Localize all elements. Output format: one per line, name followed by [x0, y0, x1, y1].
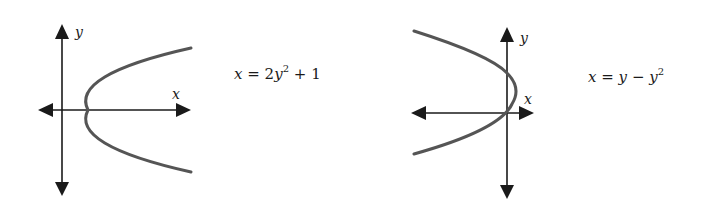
graphs-canvas: y x y x: [0, 0, 709, 211]
equation-lhs: x: [234, 65, 242, 83]
operator: −: [632, 68, 645, 86]
x-axis-right-arrow-icon: [519, 106, 534, 120]
x-axis-label: x: [524, 91, 532, 107]
variable: y: [619, 68, 627, 86]
exponent: 2: [283, 63, 289, 74]
x-axis-right-arrow-icon: [176, 103, 191, 117]
y-axis-up-arrow-icon: [55, 24, 69, 39]
graph-1: y x: [38, 24, 191, 196]
variable: y: [649, 68, 657, 86]
y-axis-down-arrow-icon: [55, 182, 69, 196]
equation-2: x = y − y2: [588, 68, 664, 86]
parabola-curve: [414, 31, 516, 154]
x-axis-left-arrow-icon: [411, 106, 426, 120]
coefficient: 2: [265, 65, 275, 83]
x-axis-left-arrow-icon: [38, 103, 53, 117]
graph-2: y x: [411, 27, 534, 199]
equals-sign: =: [247, 65, 260, 83]
equation-lhs: x: [588, 68, 596, 86]
y-axis-down-arrow-icon: [500, 185, 514, 199]
constant: 1: [311, 65, 321, 83]
y-axis-up-arrow-icon: [500, 27, 514, 42]
exponent: 2: [658, 66, 664, 77]
equals-sign: =: [601, 68, 614, 86]
y-axis-label: y: [519, 30, 529, 46]
variable: y: [274, 65, 282, 83]
equation-1: x = 2y2 + 1: [234, 65, 321, 83]
y-axis-label: y: [74, 24, 84, 40]
x-axis-label: x: [172, 86, 180, 102]
operator: +: [294, 65, 307, 83]
